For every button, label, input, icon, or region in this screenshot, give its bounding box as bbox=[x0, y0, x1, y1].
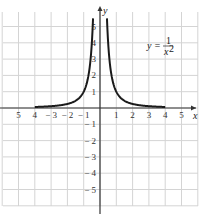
y-tick-label: − 2 bbox=[84, 136, 96, 146]
y-tick-label: − 4 bbox=[84, 168, 96, 178]
equation-label: y = 1 x 2 bbox=[146, 35, 174, 57]
x-tick-label: 2 bbox=[130, 110, 135, 120]
x-tick-label: 5 bbox=[179, 110, 184, 120]
x-tick-label: − 3 bbox=[45, 110, 57, 120]
x-tick-label: 1 bbox=[114, 110, 119, 120]
equation-exponent: 2 bbox=[169, 43, 174, 54]
y-tick-label: 3 bbox=[92, 54, 97, 64]
x-tick-label: 5 bbox=[16, 110, 21, 120]
x-tick-label: − 2 bbox=[61, 110, 73, 120]
y-tick-label: − 5 bbox=[84, 185, 96, 195]
curve-left-branch bbox=[35, 18, 93, 107]
y-axis-arrow-icon bbox=[98, 6, 103, 11]
x-tick-label: 4 bbox=[33, 110, 38, 120]
x-tick-label: 4 bbox=[163, 110, 168, 120]
y-tick-label: − 1 bbox=[84, 119, 96, 129]
y-axis-label: y bbox=[102, 5, 108, 16]
y-tick-label: 1 bbox=[92, 87, 97, 97]
y-tick-label: − 3 bbox=[84, 152, 96, 162]
x-tick-label: 3 bbox=[147, 110, 152, 120]
equation-lhs: y = bbox=[146, 40, 161, 51]
x-axis-label: x bbox=[192, 110, 198, 121]
graph-reciprocal-square: 54− 3− 2− 11234554321− 1− 2− 3− 4− 5 y x… bbox=[0, 0, 201, 214]
y-tick-label: 2 bbox=[92, 70, 97, 80]
curve-right-branch bbox=[107, 18, 165, 107]
